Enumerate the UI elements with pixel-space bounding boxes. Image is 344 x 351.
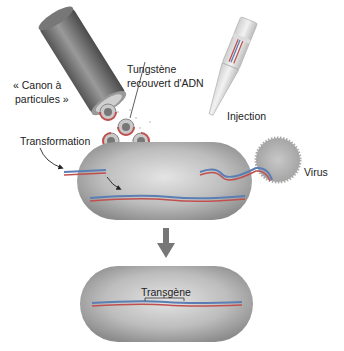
transformation-label: Transformation xyxy=(20,135,90,147)
diagram: « Canon à particules » Tungstène recouve… xyxy=(0,0,344,351)
virus-label: Virus xyxy=(304,166,328,178)
gene-gun-label-line2: particules » xyxy=(15,93,69,105)
injection-pipette xyxy=(203,17,258,118)
injection-label: Injection xyxy=(227,110,266,122)
tungsten-label-line1: Tungstène xyxy=(127,63,176,75)
bacterium-top xyxy=(64,142,272,220)
bacterium-bottom xyxy=(80,266,253,342)
gene-gun-label-line1: « Canon à xyxy=(13,79,61,91)
down-arrow xyxy=(157,228,175,258)
tungsten-label-line2: recouvert d'ADN xyxy=(127,77,204,89)
virus xyxy=(256,138,300,182)
transformation-arrow xyxy=(40,148,62,168)
transgene-label: Transgène xyxy=(141,286,191,298)
